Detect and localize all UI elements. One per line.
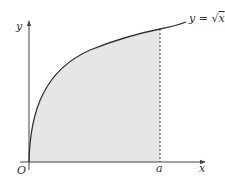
curve-label-rhs: x [218, 12, 225, 25]
curve-label: y = √x [188, 12, 225, 25]
curve-label-lhs: y = [188, 12, 211, 25]
x-axis-label: x [199, 162, 206, 175]
sqrt-area-diagram: y x O a y = √x [0, 0, 225, 180]
bound-label: a [156, 162, 163, 175]
y-axis-label: y [15, 20, 23, 33]
shaded-region [29, 29, 160, 162]
origin-label: O [17, 164, 26, 177]
